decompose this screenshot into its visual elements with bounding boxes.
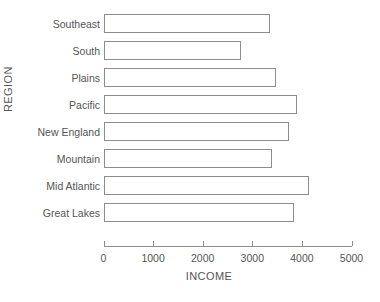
- category-label: South: [0, 45, 100, 57]
- x-axis-tick: [352, 241, 353, 246]
- x-axis-tick-label: 5000: [340, 252, 363, 264]
- category-label: Great Lakes: [0, 207, 100, 219]
- bar: [104, 149, 273, 168]
- x-axis-tick-label: 4000: [290, 252, 313, 264]
- x-axis-tick: [104, 241, 105, 246]
- bar: [104, 68, 277, 87]
- x-axis-line: [104, 246, 352, 247]
- category-label: Mountain: [0, 153, 100, 165]
- category-label: New England: [0, 126, 100, 138]
- category-label: Plains: [0, 72, 100, 84]
- category-label: Mid Atlantic: [0, 180, 100, 192]
- bar: [104, 122, 290, 141]
- bar: [104, 14, 271, 33]
- bar: [104, 176, 309, 195]
- category-label: Southeast: [0, 18, 100, 30]
- category-label: Pacific: [0, 99, 100, 111]
- x-axis-tick: [153, 241, 154, 246]
- x-axis-tick-label: 3000: [241, 252, 264, 264]
- x-axis-title: INCOME: [0, 270, 380, 282]
- x-axis-tick: [203, 241, 204, 246]
- bar: [104, 41, 242, 60]
- x-axis-tick-label: 1000: [141, 252, 164, 264]
- bar-chart: REGION SoutheastSouthPlainsPacificNew En…: [0, 0, 380, 302]
- bar: [104, 203, 294, 222]
- x-axis-tick: [302, 241, 303, 246]
- x-axis-tick-label: 2000: [191, 252, 214, 264]
- x-axis-tick: [252, 241, 253, 246]
- bar: [104, 95, 297, 114]
- x-axis-tick-label: 0: [101, 252, 107, 264]
